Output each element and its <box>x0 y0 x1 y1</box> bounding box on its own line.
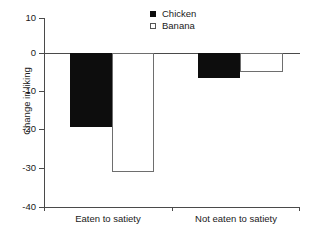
legend-item-chicken[interactable]: Chicken <box>150 8 196 19</box>
y-axis-label-neg10: -10 <box>0 86 36 96</box>
open-square-icon <box>150 23 156 29</box>
chart-legend: Chicken Banana <box>150 8 196 32</box>
bar-banana-eaten-to-satiety[interactable] <box>112 53 154 172</box>
bar-chart-figure: Change in liking 10 0 -10 -20 -30 -40 Ea… <box>0 0 311 239</box>
x-axis-label-eaten-to-satiety: Eaten to satiety <box>44 213 172 224</box>
legend-item-banana[interactable]: Banana <box>150 20 196 31</box>
legend-label-chicken: Chicken <box>162 8 196 19</box>
bar-chicken-eaten-to-satiety[interactable] <box>70 53 112 127</box>
y-axis-tick-neg30 <box>39 168 44 169</box>
y-axis-label-neg20: -20 <box>0 124 36 134</box>
y-axis-label-neg40: -40 <box>0 202 36 212</box>
y-axis-label-neg30: -30 <box>0 163 36 173</box>
y-axis-label-0: 0 <box>0 48 36 58</box>
y-axis-tick-neg20 <box>39 129 44 130</box>
filled-square-icon <box>150 11 156 17</box>
x-axis-label-not-eaten-to-satiety: Not eaten to satiety <box>172 213 300 224</box>
y-axis-tick-10 <box>39 18 44 19</box>
x-axis-tick-middle <box>172 207 173 211</box>
y-axis-label-10: 10 <box>0 13 36 23</box>
y-axis-tick-neg10 <box>39 91 44 92</box>
x-axis-tick-start <box>44 207 45 211</box>
bar-banana-not-eaten-to-satiety[interactable] <box>240 53 283 72</box>
bar-chicken-not-eaten-to-satiety[interactable] <box>198 53 240 78</box>
y-axis-line <box>44 18 45 208</box>
x-axis-tick-end <box>299 207 300 211</box>
legend-label-banana: Banana <box>162 20 195 31</box>
